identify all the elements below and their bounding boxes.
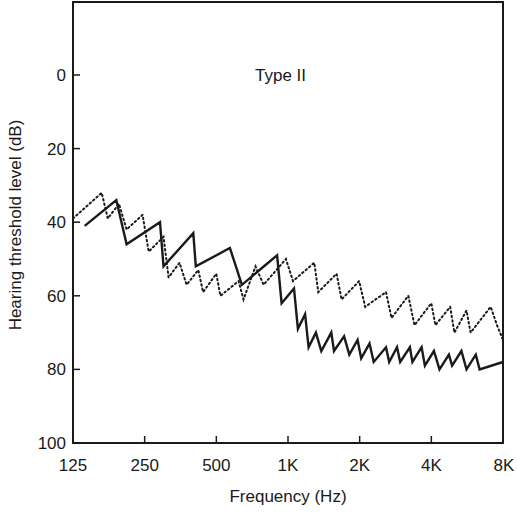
- x-tick-label: 250: [130, 456, 158, 475]
- y-tick-label: 60: [47, 287, 66, 306]
- x-axis-title: Frequency (Hz): [229, 487, 346, 506]
- x-tick-label: 4K: [421, 456, 442, 475]
- x-tick-label: 2K: [349, 456, 370, 475]
- dotted-threshold-line: [73, 193, 503, 340]
- y-axis-title: Hearing threshold level (dB): [6, 120, 25, 331]
- solid-threshold-line: [85, 200, 503, 369]
- data-series: [73, 193, 503, 370]
- y-tick-label: 20: [47, 140, 66, 159]
- x-axis-ticks: 1252505001K2K4K8K: [59, 436, 515, 475]
- x-tick-label: 125: [59, 456, 87, 475]
- x-tick-label: 8K: [494, 456, 515, 475]
- audiogram-chart: 020406080100 1252505001K2K4K8K Type II F…: [0, 0, 517, 513]
- y-tick-label: 100: [38, 434, 66, 453]
- x-tick-label: 1K: [278, 456, 299, 475]
- y-tick-label: 0: [57, 66, 66, 85]
- y-tick-label: 80: [47, 360, 66, 379]
- y-tick-label: 40: [47, 213, 66, 232]
- chart-annotation: Type II: [255, 66, 306, 85]
- x-tick-label: 500: [202, 456, 230, 475]
